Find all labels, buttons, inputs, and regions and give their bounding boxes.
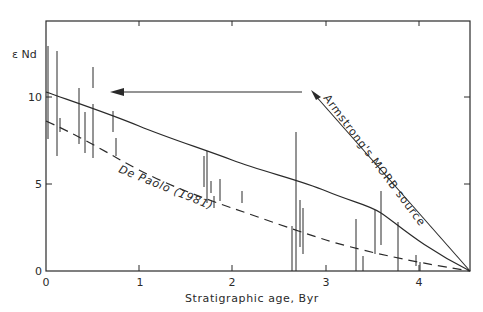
x-ticks	[139, 21, 419, 271]
y-ticks	[46, 97, 470, 184]
depaolo-annotation: De Paolo (1981)	[117, 163, 215, 213]
y-axis-label: ε Nd	[12, 48, 37, 61]
x-axis-label: Stratigraphic age, Byr	[185, 292, 319, 305]
x-tick-label: 2	[229, 276, 236, 289]
solid-evolution-curve	[46, 92, 470, 271]
x-tick-label: 3	[323, 276, 330, 289]
y-tick-label: 5	[35, 178, 42, 191]
y-tick-label: 0	[35, 265, 42, 278]
error-bars	[48, 46, 420, 271]
plot-frame	[46, 21, 470, 271]
chart-canvas: 0 5 10 0 1 2 3 4 ε Nd Stratigraphic age,…	[0, 0, 483, 312]
armstrong-annotation: Armstrong's MORB source	[321, 92, 429, 229]
armstrong-arrowhead-icon	[311, 90, 321, 100]
x-tick-label: 0	[43, 276, 50, 289]
x-tick-label: 4	[416, 276, 423, 289]
horizontal-arrowhead-icon	[110, 88, 124, 96]
x-tick-label: 1	[137, 276, 144, 289]
y-tick-label: 10	[28, 91, 42, 104]
